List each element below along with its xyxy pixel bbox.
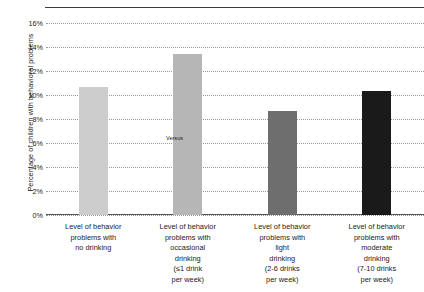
- y-axis-tick-label: 0%: [33, 211, 43, 220]
- y-axis-tick-label: 6%: [33, 139, 43, 148]
- category-label-line: (≤1 drink: [141, 264, 236, 275]
- y-axis-tick-label: 16%: [29, 19, 43, 28]
- y-axis-tick-label: 2%: [33, 187, 43, 196]
- category-label-line: moderate: [330, 243, 424, 254]
- x-axis-category-label: Level of behaviorproblems withlightdrink…: [235, 222, 330, 286]
- category-label-line: per week): [235, 275, 330, 286]
- category-label-line: problems with: [235, 233, 330, 244]
- bar: [362, 91, 391, 215]
- gridline: [46, 71, 424, 72]
- category-label-line: occasional: [141, 243, 236, 254]
- y-axis-tick-label: 14%: [29, 43, 43, 52]
- gridline: [46, 47, 424, 48]
- x-axis-category-labels: Level of behaviorproblems withno drinkin…: [46, 222, 424, 292]
- category-label-line: drinking: [141, 254, 236, 265]
- x-axis-category-label: Level of behaviorproblems withoccasional…: [141, 222, 236, 286]
- category-label-line: Level of behavior: [235, 222, 330, 233]
- bar: [268, 111, 297, 215]
- category-label-line: (2-6 drinks: [235, 264, 330, 275]
- gridline: [46, 215, 424, 216]
- category-label-line: (7-10 drinks: [330, 264, 424, 275]
- category-label-line: no drinking: [46, 243, 141, 254]
- category-label-line: light: [235, 243, 330, 254]
- bar: [79, 87, 108, 215]
- y-axis-tick-label: 4%: [33, 163, 43, 172]
- y-axis-tick-label: 8%: [33, 115, 43, 124]
- bar-chart: Percentage of children with behavioral p…: [0, 0, 424, 292]
- category-label-line: per week): [330, 275, 424, 286]
- category-label-line: problems with: [330, 233, 424, 244]
- category-label-line: Level of behavior: [46, 222, 141, 233]
- category-label-line: problems with: [141, 233, 236, 244]
- top-divider-rule: [45, 7, 424, 8]
- category-label-line: per week): [141, 275, 236, 286]
- category-label-line: drinking: [330, 254, 424, 265]
- category-label-line: Level of behavior: [141, 222, 236, 233]
- gridline: [46, 23, 424, 24]
- y-axis-tick-label: 10%: [29, 91, 43, 100]
- category-label-line: Level of behavior: [330, 222, 424, 233]
- category-label-line: drinking: [235, 254, 330, 265]
- plot-area: 16%14%12%10%8%6%4%2%0%Versus: [46, 23, 424, 215]
- x-axis-category-label: Level of behaviorproblems withno drinkin…: [46, 222, 141, 254]
- category-label-line: problems with: [46, 233, 141, 244]
- versus-annotation: Versus: [166, 135, 183, 141]
- x-axis-category-label: Level of behaviorproblems withmoderatedr…: [330, 222, 424, 286]
- y-axis-tick-label: 12%: [29, 67, 43, 76]
